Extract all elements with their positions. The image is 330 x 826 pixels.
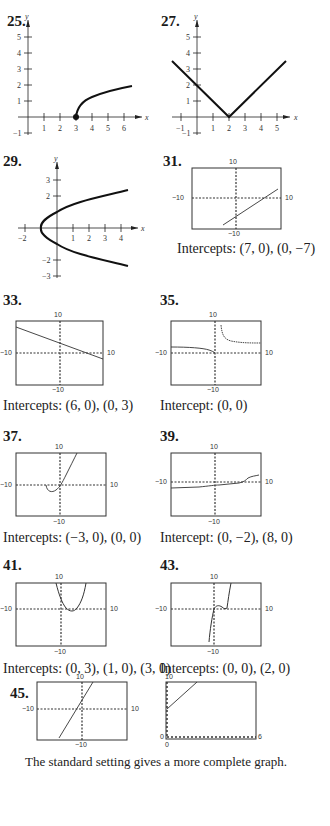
svg-text:y: y bbox=[193, 12, 198, 21]
svg-text:5: 5 bbox=[17, 33, 21, 42]
svg-text:10: 10 bbox=[54, 311, 62, 318]
svg-text:10: 10 bbox=[165, 673, 173, 680]
svg-text:−1: −1 bbox=[176, 124, 185, 133]
svg-text:y: y bbox=[24, 12, 29, 21]
svg-text:−10: −10 bbox=[228, 230, 240, 237]
svg-text:−1: −1 bbox=[13, 129, 22, 138]
svg-text:5: 5 bbox=[186, 33, 190, 42]
svg-text:−10: −10 bbox=[75, 741, 87, 748]
svg-text:10: 10 bbox=[265, 478, 273, 485]
svg-text:3: 3 bbox=[17, 65, 21, 74]
svg-text:6: 6 bbox=[258, 733, 262, 740]
calculator-graph-39: 10 −10 10 −10 bbox=[169, 445, 279, 525]
svg-text:4: 4 bbox=[259, 124, 263, 133]
svg-text:10: 10 bbox=[55, 443, 63, 450]
svg-text:x: x bbox=[144, 113, 149, 122]
problem-number-39: 39. bbox=[160, 428, 179, 445]
calculator-graph-41: 10 −10 10 −10 bbox=[14, 575, 124, 655]
svg-text:−10: −10 bbox=[172, 194, 184, 201]
svg-text:0: 0 bbox=[165, 741, 169, 748]
svg-text:−10: −10 bbox=[52, 386, 64, 393]
svg-text:−10: −10 bbox=[208, 518, 220, 525]
svg-text:1: 1 bbox=[42, 124, 46, 133]
svg-text:10: 10 bbox=[76, 673, 84, 680]
svg-text:10: 10 bbox=[210, 443, 218, 450]
svg-text:−10: −10 bbox=[0, 349, 12, 356]
svg-text:1: 1 bbox=[71, 234, 75, 243]
problem-number-43: 43. bbox=[160, 557, 179, 574]
intercepts-37: Intercepts: (−3, 0), (0, 0) bbox=[3, 530, 141, 546]
svg-text:1: 1 bbox=[211, 124, 215, 133]
svg-text:5: 5 bbox=[106, 124, 110, 133]
svg-text:1: 1 bbox=[186, 97, 190, 106]
problem-number-35: 35. bbox=[160, 292, 179, 309]
svg-text:−2: −2 bbox=[42, 256, 51, 265]
svg-text:0: 0 bbox=[160, 733, 164, 740]
svg-text:x: x bbox=[293, 113, 298, 122]
calculator-graph-35: 10 −10 10 −10 bbox=[169, 313, 279, 393]
footer-caption: The standard setting gives a more comple… bbox=[25, 754, 287, 770]
svg-text:10: 10 bbox=[265, 349, 273, 356]
svg-text:2: 2 bbox=[227, 124, 231, 133]
svg-text:4: 4 bbox=[90, 124, 94, 133]
calculator-graph-45-custom: 10 0 6 0 bbox=[160, 675, 270, 755]
problem-number-33: 33. bbox=[3, 292, 22, 309]
svg-text:3: 3 bbox=[243, 124, 247, 133]
svg-text:x: x bbox=[140, 224, 145, 233]
calculator-graph-33: 10 −10 10 −10 bbox=[14, 313, 124, 393]
svg-text:4: 4 bbox=[186, 49, 190, 58]
svg-text:−10: −10 bbox=[155, 605, 167, 612]
svg-text:10: 10 bbox=[209, 311, 217, 318]
svg-text:2: 2 bbox=[46, 192, 50, 201]
graph-27: y x 54321−1 −112345 bbox=[160, 0, 330, 140]
svg-text:3: 3 bbox=[103, 234, 107, 243]
svg-text:−10: −10 bbox=[207, 386, 219, 393]
svg-text:10: 10 bbox=[55, 573, 63, 580]
graph-25: y x 54321−1 123456 bbox=[0, 0, 160, 140]
svg-text:10: 10 bbox=[265, 605, 273, 612]
problem-number-31: 31. bbox=[163, 153, 182, 170]
svg-text:−10: −10 bbox=[0, 481, 12, 488]
svg-text:−10: −10 bbox=[54, 648, 66, 655]
svg-text:−3: −3 bbox=[42, 272, 51, 281]
svg-text:4: 4 bbox=[17, 49, 21, 58]
svg-text:1: 1 bbox=[17, 97, 21, 106]
svg-text:4: 4 bbox=[119, 234, 123, 243]
calculator-graph-45-standard: 10 −10 10 −10 bbox=[34, 675, 144, 755]
svg-text:10: 10 bbox=[210, 573, 218, 580]
graph-29: y x 32−2−3 −21234 bbox=[0, 140, 160, 280]
intercepts-39: Intercept: (0, −2), (8, 0) bbox=[160, 530, 293, 546]
svg-text:10: 10 bbox=[107, 349, 115, 356]
svg-text:3: 3 bbox=[186, 65, 190, 74]
svg-text:−10: −10 bbox=[22, 705, 34, 712]
svg-text:5: 5 bbox=[275, 124, 279, 133]
svg-text:3: 3 bbox=[74, 124, 78, 133]
svg-text:10: 10 bbox=[110, 605, 118, 612]
svg-text:2: 2 bbox=[87, 234, 91, 243]
svg-text:2: 2 bbox=[58, 124, 62, 133]
svg-text:3: 3 bbox=[46, 176, 50, 185]
svg-text:−10: −10 bbox=[155, 349, 167, 356]
intercepts-31: Intercepts: (7, 0), (0, −7) bbox=[177, 241, 315, 257]
intercepts-35: Intercept: (0, 0) bbox=[160, 398, 247, 414]
svg-text:−10: −10 bbox=[0, 605, 12, 612]
svg-text:2: 2 bbox=[186, 81, 190, 90]
svg-text:−10: −10 bbox=[53, 518, 65, 525]
intercepts-33: Intercepts: (6, 0), (0, 3) bbox=[3, 398, 133, 414]
calculator-graph-31: 10 −10 10 −10 bbox=[190, 158, 300, 238]
problem-number-41: 41. bbox=[3, 557, 22, 574]
svg-text:10: 10 bbox=[229, 158, 237, 165]
problem-number-45: 45. bbox=[10, 685, 29, 702]
svg-text:10: 10 bbox=[110, 481, 118, 488]
svg-text:2: 2 bbox=[17, 81, 21, 90]
calculator-graph-37: 10 −10 10 −10 bbox=[14, 445, 124, 525]
svg-text:6: 6 bbox=[122, 124, 126, 133]
svg-text:−2: −2 bbox=[18, 234, 27, 243]
svg-text:10: 10 bbox=[131, 705, 139, 712]
svg-text:−10: −10 bbox=[207, 648, 219, 655]
calculator-graph-43: 10 −10 10 −10 bbox=[169, 575, 279, 655]
svg-text:−10: −10 bbox=[155, 478, 167, 485]
svg-text:y: y bbox=[53, 154, 58, 163]
problem-number-37: 37. bbox=[3, 428, 22, 445]
svg-text:10: 10 bbox=[285, 194, 293, 201]
